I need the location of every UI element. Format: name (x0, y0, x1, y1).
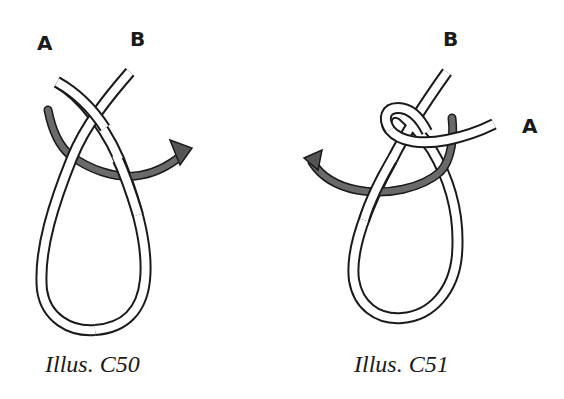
rope-diagram-c51 (282, 0, 564, 399)
figure-caption: Illus. C51 (354, 352, 449, 376)
rope-diagram-c50 (0, 0, 282, 399)
figure-caption: Illus. C50 (45, 352, 140, 376)
rope-end-label-a: A (37, 33, 52, 53)
rope-end-label-b: B (443, 29, 458, 49)
figure-c51: B A Illus. C51 (282, 0, 564, 399)
rope-end-label-a: A (522, 116, 537, 136)
rope-end-label-b: B (130, 29, 145, 49)
figure-c50: A B Illus. C50 (0, 0, 282, 399)
